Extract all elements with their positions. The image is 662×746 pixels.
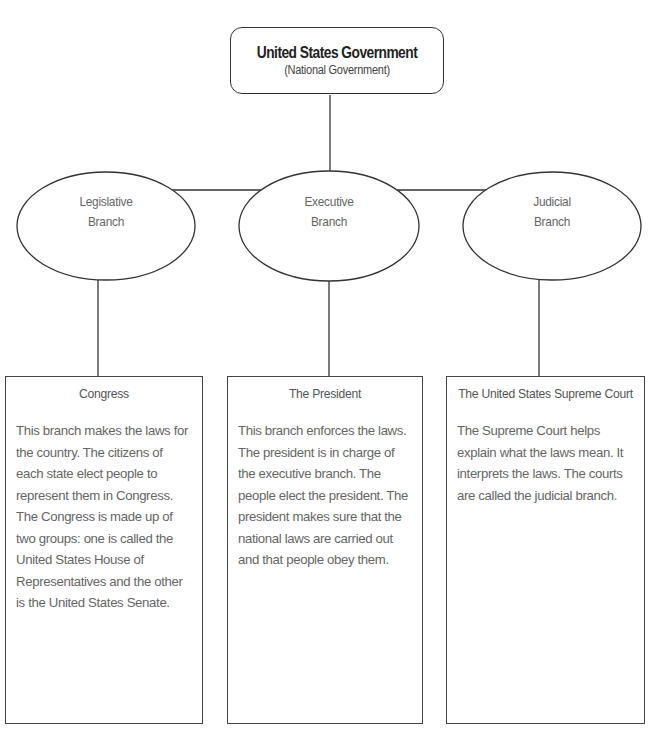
congress-card: Congress This branch makes the laws for … <box>5 376 203 724</box>
supreme-court-card: The United States Supreme Court The Supr… <box>446 376 645 724</box>
judicial-label-line1: Judicial <box>499 192 605 212</box>
executive-branch-label: Executive Branch <box>276 192 382 232</box>
legislative-label-line2: Branch <box>53 212 159 232</box>
root-subtitle: (National Government) <box>244 63 431 77</box>
congress-card-title: Congress <box>16 386 192 401</box>
congress-card-body: This branch makes the laws for the count… <box>16 420 192 614</box>
supreme-court-card-body: The Supreme Court helps explain what the… <box>457 420 634 506</box>
president-card-body: This branch enforces the laws. The presi… <box>238 420 412 571</box>
judicial-label-line2: Branch <box>499 212 605 232</box>
executive-label-line1: Executive <box>276 192 382 212</box>
root-node-box: United States Government (National Gover… <box>230 27 444 94</box>
president-card-title: The President <box>238 386 413 401</box>
root-title: United States Government <box>246 44 428 62</box>
executive-label-line2: Branch <box>276 212 382 232</box>
legislative-branch-label: Legislative Branch <box>53 192 159 232</box>
judicial-branch-label: Judicial Branch <box>499 192 605 232</box>
supreme-court-card-title: The United States Supreme Court <box>457 386 634 401</box>
legislative-label-line1: Legislative <box>53 192 159 212</box>
president-card: The President This branch enforces the l… <box>227 376 423 724</box>
